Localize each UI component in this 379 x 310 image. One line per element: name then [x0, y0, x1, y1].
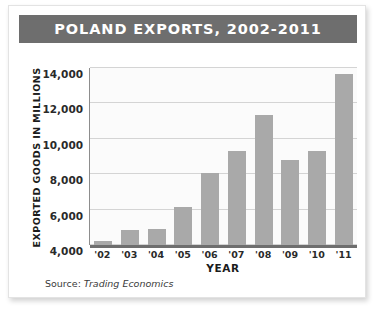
- x-axis-tick-label: '10: [303, 249, 330, 260]
- bar-series: [90, 68, 357, 245]
- bar[interactable]: [228, 151, 246, 245]
- bar-slot: [304, 68, 331, 245]
- bar-slot: [117, 68, 144, 245]
- bar[interactable]: [308, 151, 326, 245]
- bar-slot: [90, 68, 117, 245]
- x-axis-tick-label: '04: [143, 249, 170, 260]
- x-axis-tick-label: '08: [250, 249, 277, 260]
- x-axis-line: [90, 245, 357, 248]
- plot-area: 4,0006,0008,00010,00012,00014,000 '02'03…: [89, 68, 357, 245]
- source-prefix: Source:: [45, 278, 84, 289]
- bar[interactable]: [174, 207, 192, 245]
- bar-slot: [224, 68, 251, 245]
- x-axis-ticks: '02'03'04'05'06'07'08'09'10'11: [89, 249, 357, 260]
- x-axis-tick-label: '02: [89, 249, 116, 260]
- x-axis-tick-label: '05: [169, 249, 196, 260]
- bar[interactable]: [201, 173, 219, 245]
- x-axis-tick-label: '09: [277, 249, 304, 260]
- x-axis-tick-label: '07: [223, 249, 250, 260]
- x-axis-tick-label: '06: [196, 249, 223, 260]
- bar-slot: [170, 68, 197, 245]
- bar[interactable]: [335, 74, 353, 245]
- x-axis-tick-label: '03: [116, 249, 143, 260]
- bar[interactable]: [255, 115, 273, 245]
- bar-slot: [197, 68, 224, 245]
- bar-slot: [143, 68, 170, 245]
- source-note: Source: Trading Economics: [45, 278, 173, 289]
- bar-slot: [250, 68, 277, 245]
- x-axis-label: YEAR: [89, 262, 357, 274]
- plot-canvas: [89, 68, 357, 245]
- bar-slot: [330, 68, 357, 245]
- source-name: Trading Economics: [84, 278, 173, 289]
- chart-title-bar: POLAND EXPORTS, 2002-2011: [19, 15, 357, 43]
- bar[interactable]: [148, 229, 166, 245]
- bar[interactable]: [281, 160, 299, 245]
- x-axis-tick-label: '11: [330, 249, 357, 260]
- bar[interactable]: [121, 230, 139, 245]
- bar-slot: [277, 68, 304, 245]
- page-title: POLAND EXPORTS, 2002-2011: [54, 21, 321, 37]
- chart-card: POLAND EXPORTS, 2002-2011 EXPORTED GOODS…: [8, 5, 366, 298]
- y-axis-label: EXPORTED GOODS IN MILLIONS: [31, 68, 42, 248]
